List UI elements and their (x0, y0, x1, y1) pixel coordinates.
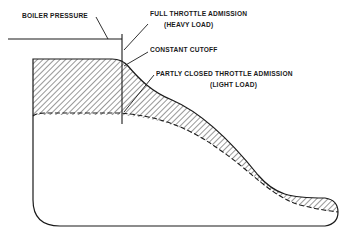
label-light-load: (LIGHT LOAD) (210, 80, 257, 89)
label-partly-closed-throttle: PARTLY CLOSED THROTTLE ADMISSION (156, 69, 293, 78)
full-throttle-leader (124, 24, 148, 50)
constant-cutoff-leader (124, 52, 148, 66)
label-heavy-load: (HEAVY LOAD) (164, 20, 213, 29)
label-full-throttle-admission: FULL THROTTLE ADMISSION (150, 9, 247, 18)
label-boiler-pressure: BOILER PRESSURE (22, 11, 88, 20)
label-constant-cutoff: CONSTANT CUTOFF (150, 45, 218, 54)
hatched-work-difference-area (33, 59, 338, 212)
boiler-pressure-leader (96, 17, 108, 39)
indicator-diagram (0, 0, 352, 246)
